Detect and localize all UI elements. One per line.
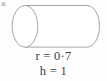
cylinder-figure-panel: a r = 0·7 h = 1: [0, 0, 107, 81]
height-label: h = 1: [0, 64, 107, 79]
radius-label: r = 0·7: [0, 49, 107, 64]
cylinder-illustration: [0, 0, 107, 52]
cylinder-svg: [0, 0, 107, 52]
cylinder-left-end-ellipse: [12, 6, 38, 48]
dimension-labels: r = 0·7 h = 1: [0, 49, 107, 79]
